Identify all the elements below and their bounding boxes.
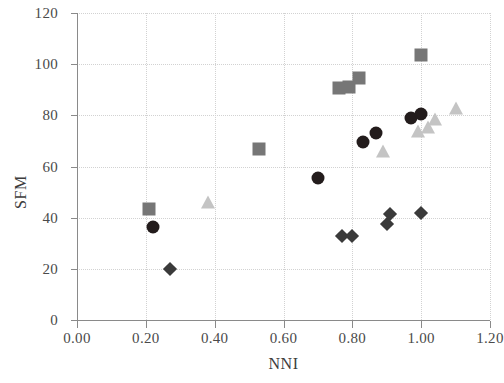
y-axis-tick-label: 100 [0, 56, 62, 73]
x-axis-tick-label: 1.00 [407, 330, 434, 347]
data-point-circle [356, 136, 369, 149]
gridline-horizontal [77, 167, 490, 168]
y-axis-tick [71, 167, 78, 168]
y-axis-tick-label: 0 [0, 312, 62, 329]
data-point-square [415, 49, 428, 62]
x-axis-tick-label: 0.80 [339, 330, 366, 347]
data-point-diamond [345, 228, 359, 242]
data-point-circle [146, 220, 159, 233]
data-point-triangle [201, 196, 215, 209]
plot-area [77, 13, 490, 320]
data-point-square [143, 202, 156, 215]
x-axis-tick [490, 321, 491, 328]
y-axis-tick [71, 115, 78, 116]
data-point-diamond [163, 262, 177, 276]
data-point-circle [311, 172, 324, 185]
y-axis-tick [71, 218, 78, 219]
x-axis-tick-label: 0.60 [270, 330, 297, 347]
y-axis-tick-label: 80 [0, 107, 62, 124]
data-point-square [353, 72, 366, 85]
data-point-triangle [376, 145, 390, 158]
y-axis-tick [71, 269, 78, 270]
y-axis-tick-label: 40 [0, 209, 62, 226]
data-point-triangle [428, 113, 442, 126]
y-axis-tick-label: 60 [0, 158, 62, 175]
y-axis-tick [71, 13, 78, 14]
y-axis-tick [71, 64, 78, 65]
data-point-triangle [449, 101, 463, 114]
x-axis-tick-label: 1.20 [476, 330, 503, 347]
y-axis-tick-label: 120 [0, 5, 62, 22]
gridline-horizontal [77, 269, 490, 270]
y-axis-title: SFM [12, 175, 30, 209]
y-axis-line [77, 13, 78, 320]
x-axis-tick-label: 0.00 [63, 330, 90, 347]
x-axis-tick [421, 321, 422, 328]
x-axis-line [77, 320, 490, 321]
data-point-square [253, 142, 266, 155]
gridline-horizontal [77, 64, 490, 65]
x-axis-tick [215, 321, 216, 328]
data-point-circle [415, 108, 428, 121]
x-axis-tick [284, 321, 285, 328]
data-point-circle [370, 127, 383, 140]
x-axis-title: NNI [77, 355, 490, 373]
gridline-horizontal [77, 218, 490, 219]
gridline-vertical [490, 13, 491, 320]
x-axis-tick [77, 321, 78, 328]
x-axis-tick-label: 0.40 [201, 330, 228, 347]
gridline-horizontal [77, 13, 490, 14]
x-axis-tick-label: 0.20 [132, 330, 159, 347]
x-axis-tick [146, 321, 147, 328]
x-axis-tick [352, 321, 353, 328]
y-axis-tick-label: 20 [0, 260, 62, 277]
